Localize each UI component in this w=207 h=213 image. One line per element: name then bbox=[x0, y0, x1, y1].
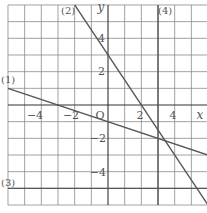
x-tick-label: −4 bbox=[27, 109, 43, 122]
x-tick-label: 2 bbox=[137, 109, 144, 122]
x-tick-label: −2 bbox=[63, 109, 79, 122]
x-axis-label: x bbox=[197, 108, 204, 122]
y-tick-label: 4 bbox=[98, 32, 105, 45]
origin-label: O bbox=[95, 109, 104, 122]
coordinate-plane: −4 −2 2 4 4 2 −2 −4 O x y (1) (2) (3) (4… bbox=[0, 0, 207, 213]
axes bbox=[8, 5, 207, 205]
line-3-label: (3) bbox=[1, 177, 15, 188]
line-2-label: (2) bbox=[61, 5, 75, 16]
line-4-label: (4) bbox=[158, 5, 172, 16]
line-1-label: (1) bbox=[1, 74, 15, 85]
y-axis-label: y bbox=[97, 0, 105, 14]
y-tick-label: −4 bbox=[90, 166, 106, 179]
x-tick-label: 4 bbox=[170, 109, 177, 122]
y-tick-label: 2 bbox=[98, 65, 105, 78]
y-tick-label: −2 bbox=[90, 132, 106, 145]
